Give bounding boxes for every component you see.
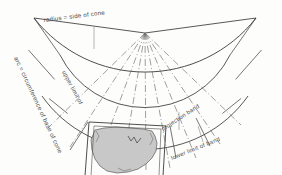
- us-map-shape: [91, 127, 157, 173]
- label-radius: radius = side of cone: [43, 8, 105, 23]
- label-upper-limit: upper limit of: [61, 70, 84, 106]
- meridian-line-2: [29, 50, 55, 79]
- cone-development-diagram: radius = side of cone arc = circumferenc…: [0, 0, 282, 175]
- projection-band-cell: [85, 122, 166, 175]
- meridian-line-1: [34, 18, 60, 55]
- meridian-line-3: [49, 99, 68, 114]
- meridian-line-5: [230, 18, 256, 55]
- right-radius-line: [145, 18, 256, 33]
- dashdot-ray-1: [48, 33, 145, 128]
- label-projection-band: projection band: [160, 103, 200, 132]
- lower-limit-leader: [198, 126, 203, 142]
- band-inner-right: [159, 129, 161, 175]
- diagram-canvas: radius = side of cone arc = circumferenc…: [0, 0, 282, 175]
- dashdot-ray-8: [145, 33, 220, 144]
- meridian-line-4: [236, 50, 262, 79]
- us-outline-path: [91, 127, 157, 173]
- meridian-line-6: [222, 99, 241, 114]
